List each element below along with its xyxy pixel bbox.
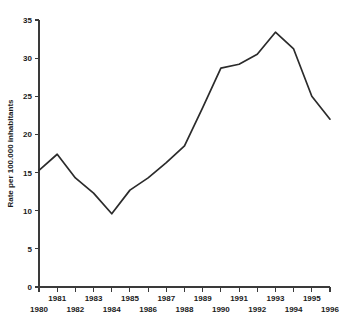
x-tick-label: 1985	[121, 294, 139, 303]
y-tick-label: 15	[23, 169, 32, 178]
x-tick-label: 1980	[30, 305, 48, 314]
series-line	[39, 32, 330, 214]
x-tick-label: 1994	[285, 305, 303, 314]
x-tick-label: 1992	[248, 305, 266, 314]
x-tick-label: 1984	[103, 305, 121, 314]
y-tick-label: 5	[28, 245, 33, 254]
y-tick-label: 25	[23, 92, 32, 101]
x-tick-label: 1990	[212, 305, 230, 314]
y-axis-title-text: Rate per 100.000 inhabitants	[6, 99, 15, 208]
y-tick-label: 0	[28, 283, 33, 292]
x-tick-label: 1986	[139, 305, 157, 314]
chart-canvas: 05101520253035 1980198119821983198419851…	[0, 0, 347, 322]
y-tick-label: 10	[23, 207, 32, 216]
x-tick-label: 1983	[85, 294, 103, 303]
x-tick-label: 1988	[176, 305, 194, 314]
y-tick-label: 30	[23, 54, 32, 63]
x-axis-tick-labels: 1980198119821983198419851986198719881989…	[30, 294, 339, 314]
y-axis-tick-labels: 05101520253035	[23, 16, 32, 292]
x-tick-label: 1989	[194, 294, 212, 303]
x-tick-label: 1995	[303, 294, 321, 303]
x-axis-ticks	[39, 287, 330, 292]
line-chart: 05101520253035 1980198119821983198419851…	[0, 0, 347, 322]
y-tick-label: 35	[23, 16, 32, 25]
axes	[39, 20, 330, 287]
x-tick-label: 1993	[267, 294, 285, 303]
x-tick-label: 1987	[157, 294, 175, 303]
x-tick-label: 1981	[48, 294, 66, 303]
x-tick-label: 1991	[230, 294, 248, 303]
y-axis-ticks	[35, 20, 39, 287]
data-series	[39, 32, 330, 214]
x-tick-label: 1982	[66, 305, 84, 314]
x-tick-label: 1996	[321, 305, 339, 314]
y-tick-label: 20	[23, 130, 32, 139]
y-axis-title: Rate per 100.000 inhabitants	[6, 99, 15, 208]
